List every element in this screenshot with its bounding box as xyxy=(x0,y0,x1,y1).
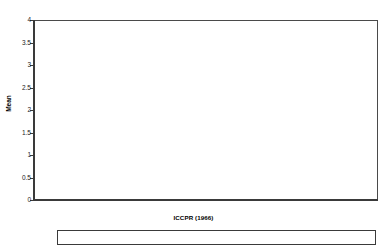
y-tick-label: 1.5 xyxy=(0,129,37,136)
y-tick-label: 3 xyxy=(0,61,37,68)
y-tick-label: 0.5 xyxy=(0,174,37,181)
chart-legend xyxy=(57,230,376,245)
plot-area xyxy=(33,20,378,200)
y-tick-label: 3.5 xyxy=(0,39,37,46)
y-tick-label: 0 xyxy=(0,196,37,203)
y-tick-label: 2.5 xyxy=(0,84,37,91)
x-axis-title: ICCPR (1966) xyxy=(0,214,387,221)
y-tick-label: 4 xyxy=(0,16,37,23)
bar-chart: Mean 43.532.521.510.50 ICCPR (1966) xyxy=(0,0,387,252)
x-axis-line xyxy=(33,199,378,201)
y-tick-label: 2 xyxy=(0,106,37,113)
y-tick-label: 1 xyxy=(0,151,37,158)
